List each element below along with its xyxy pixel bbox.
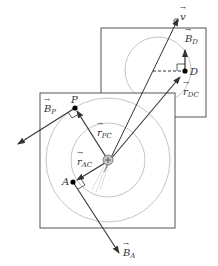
label-B-D: BD bbox=[185, 34, 198, 46]
label-r-AC: rAC bbox=[77, 157, 92, 169]
diagram-canvas: v BD D rDC P BP rPC rAC A BA bbox=[0, 0, 218, 266]
point-A bbox=[70, 179, 75, 184]
label-r-PC: rPC bbox=[97, 128, 112, 140]
label-B-P: BP bbox=[44, 104, 56, 116]
label-r-DC: rDC bbox=[183, 87, 199, 99]
label-D: D bbox=[190, 67, 198, 77]
label-v: v bbox=[180, 12, 186, 22]
label-A: A bbox=[62, 177, 69, 187]
label-P: P bbox=[71, 95, 78, 105]
point-P bbox=[72, 105, 77, 110]
point-D bbox=[182, 68, 187, 73]
label-B-A: BA bbox=[123, 248, 135, 260]
